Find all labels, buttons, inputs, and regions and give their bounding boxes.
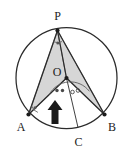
geometry-figure: P O A B C bbox=[0, 0, 133, 156]
vertex-dot-b bbox=[102, 112, 106, 116]
vertex-dot-o bbox=[64, 76, 68, 80]
vertex-label-o: O bbox=[53, 65, 62, 79]
vertex-label-b: B bbox=[108, 120, 116, 134]
up-arrow-icon bbox=[48, 100, 63, 124]
angle-mark-aoc-dot-1 bbox=[55, 89, 58, 92]
angle-mark-aoc-dot-2 bbox=[61, 89, 64, 92]
vertex-dot-p bbox=[55, 28, 59, 32]
angle-mark-p-dot bbox=[56, 42, 59, 45]
angle-mark-cob-ring-1 bbox=[71, 90, 75, 94]
vertex-label-p: P bbox=[54, 9, 61, 23]
vertex-dot-a bbox=[26, 112, 30, 116]
vertex-label-a: A bbox=[17, 120, 26, 134]
angle-mark-a-dot bbox=[34, 106, 37, 109]
geometry-canvas: P O A B C bbox=[0, 0, 133, 156]
vertex-label-c: C bbox=[74, 135, 82, 149]
